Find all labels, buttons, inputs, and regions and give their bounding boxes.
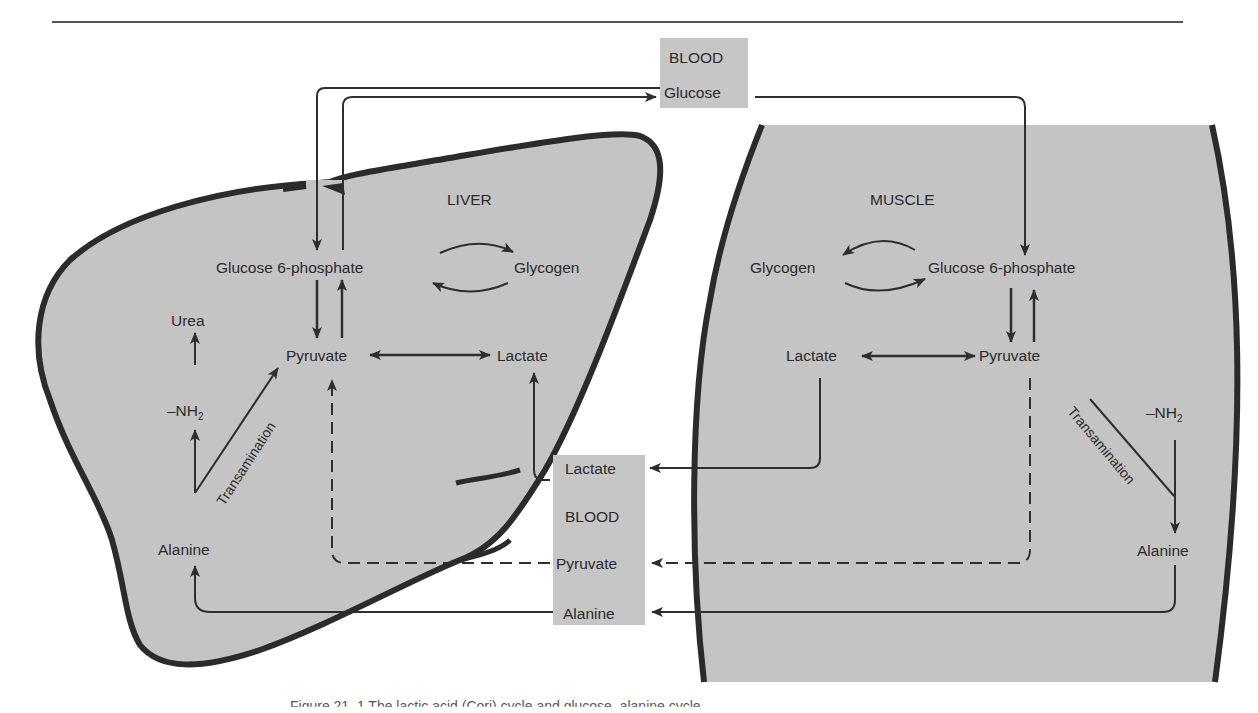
liver-nh2: –NH2 xyxy=(167,403,204,422)
liver-alanine: Alanine xyxy=(158,542,210,558)
liver-notch xyxy=(283,186,306,189)
muscle-glucose6p: Glucose 6-phosphate xyxy=(928,260,1075,276)
blood-bottom-pyruvate: Pyruvate xyxy=(556,556,617,572)
liver-lactate: Lactate xyxy=(497,348,548,364)
muscle-nh2: –NH2 xyxy=(1146,405,1183,424)
liver-glucose6p: Glucose 6-phosphate xyxy=(216,260,363,276)
blood-bottom-alanine: Alanine xyxy=(563,606,615,622)
liver-title: LIVER xyxy=(447,192,492,208)
blood-top-glucose: Glucose xyxy=(664,85,721,101)
liver-urea: Urea xyxy=(171,313,205,329)
blood-bottom-box xyxy=(553,455,645,625)
muscle-title: MUSCLE xyxy=(870,192,935,208)
muscle-alanine: Alanine xyxy=(1137,543,1189,559)
muscle-glycogen: Glycogen xyxy=(750,260,815,276)
liver-glycogen: Glycogen xyxy=(514,260,579,276)
blood-bottom-lactate: Lactate xyxy=(565,461,616,477)
blood-top-title: BLOOD xyxy=(669,50,723,66)
blood-bottom-title: BLOOD xyxy=(565,509,619,525)
muscle-lactate: Lactate xyxy=(786,348,837,364)
liver-pyruvate: Pyruvate xyxy=(286,348,347,364)
cori-cycle-diagram xyxy=(0,0,1258,713)
muscle-pyruvate: Pyruvate xyxy=(979,348,1040,364)
